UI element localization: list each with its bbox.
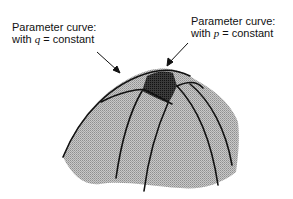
label-p-line1: Parameter curve: xyxy=(191,15,275,27)
label-p-line2: with p = constant xyxy=(191,27,275,39)
label-q-constant: Parameter curve: with q = constant xyxy=(12,21,96,45)
arrow-p xyxy=(169,43,188,63)
label-q-line1: Parameter curve: xyxy=(12,21,96,33)
label-p-constant: Parameter curve: with p = constant xyxy=(191,15,275,39)
label-q-line2: with q = constant xyxy=(12,33,96,45)
pointer-arrows xyxy=(97,43,188,73)
